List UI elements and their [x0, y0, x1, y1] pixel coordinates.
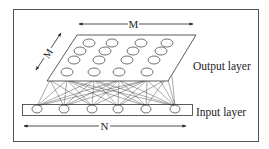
output-node — [93, 56, 105, 64]
input-node — [170, 105, 180, 113]
output-node — [106, 39, 118, 47]
input-node — [32, 105, 42, 113]
output-layer-label: Output layer — [193, 60, 251, 73]
bottom-dimension-label: N — [101, 120, 109, 132]
output-node — [148, 56, 160, 64]
depth-dimension-arrow: M — [36, 33, 61, 70]
input-node — [141, 105, 151, 113]
output-node — [135, 39, 147, 47]
output-node — [127, 47, 139, 55]
som-network-diagram: M M — [0, 0, 269, 149]
input-layer-label: Input layer — [196, 106, 246, 119]
input-node — [59, 105, 69, 113]
output-node — [88, 68, 100, 76]
input-layer — [23, 105, 193, 116]
input-layer-bar — [23, 105, 193, 116]
output-node — [155, 47, 167, 55]
output-node — [74, 47, 86, 55]
input-node — [87, 105, 97, 113]
depth-dimension-label: M — [41, 46, 55, 60]
output-node — [141, 68, 153, 76]
input-node — [113, 105, 123, 113]
top-dimension-arrow: M — [79, 18, 193, 30]
top-dimension-label: M — [129, 18, 139, 30]
output-node — [161, 39, 173, 47]
output-node — [99, 47, 111, 55]
output-node — [121, 56, 133, 64]
input-nodes — [32, 105, 180, 113]
output-node — [113, 68, 125, 76]
output-node — [83, 39, 95, 47]
output-node — [61, 68, 73, 76]
output-node — [68, 56, 80, 64]
bottom-dimension-arrow: N — [24, 120, 186, 132]
output-layer — [47, 35, 196, 81]
